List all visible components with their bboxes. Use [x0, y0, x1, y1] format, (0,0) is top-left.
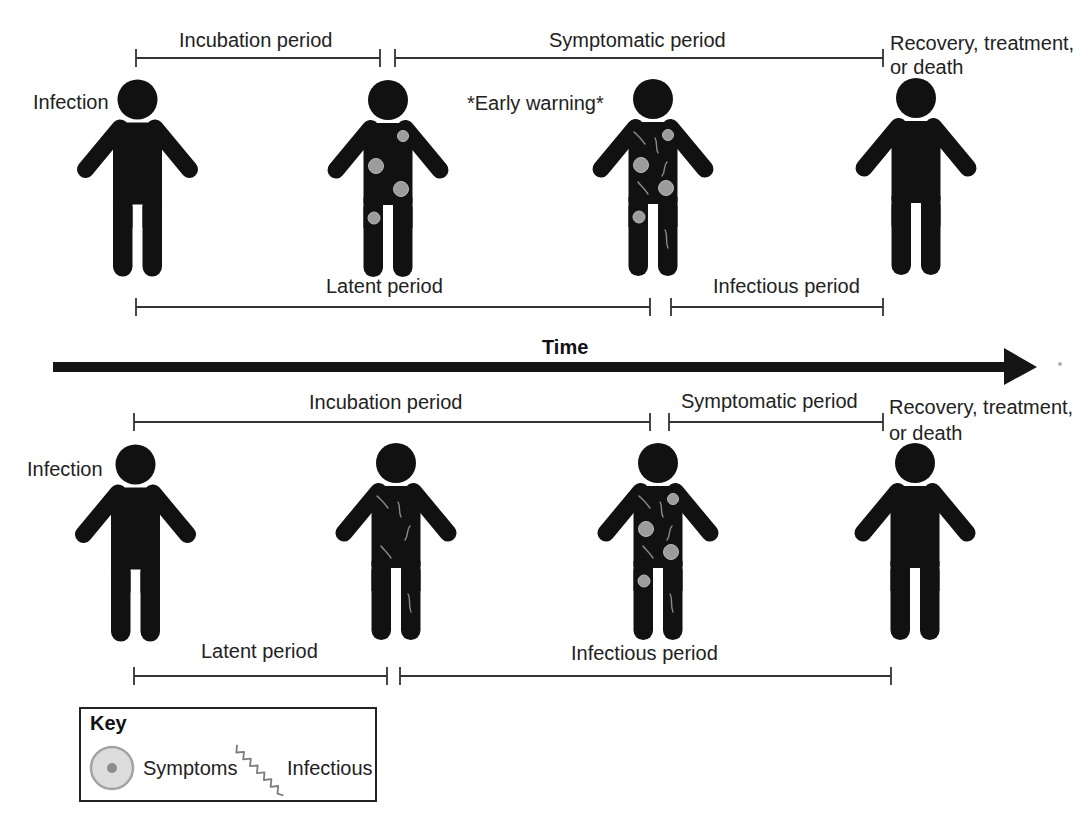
symptoms-icon: [91, 747, 133, 789]
key-icons: [0, 0, 1092, 823]
infectious-icon: [236, 745, 283, 796]
key-item-infectious-label: Infectious: [287, 758, 373, 778]
disease-timeline-diagram: Incubation period Symptomatic period Rec…: [0, 0, 1092, 823]
key-item-symptoms-label: Symptoms: [143, 758, 237, 778]
